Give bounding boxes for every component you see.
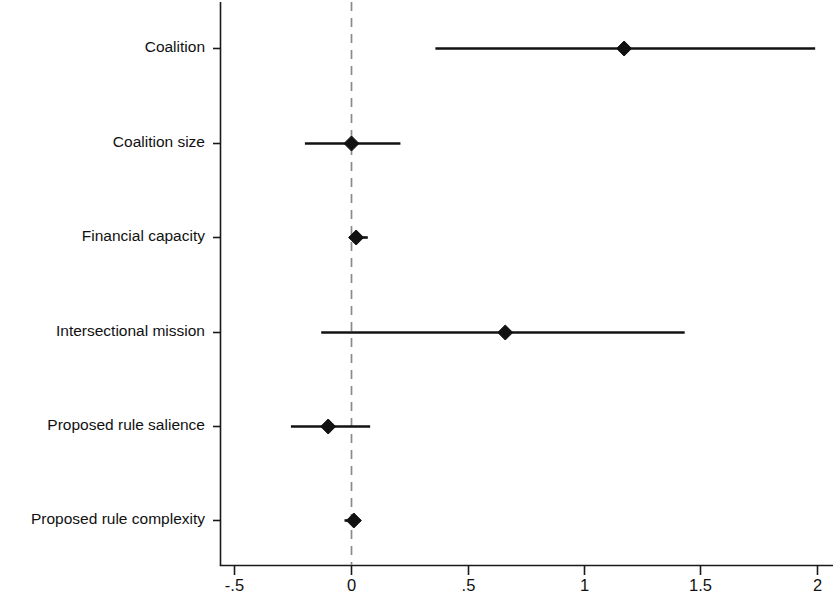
coefficient-row-coalition-size: [305, 136, 401, 151]
y-axis-label-proposed-rule-salience: Proposed rule salience: [47, 416, 205, 433]
coefficient-plot-figure: Coalition Coalition size Financial capac…: [0, 0, 833, 602]
coefficient-series-layer: [291, 41, 815, 528]
x-axis-ticklabel-1: 1: [580, 576, 589, 594]
x-axis-ticklabel-0: 0: [347, 576, 356, 594]
x-axis-ticklabel-2: 2: [813, 576, 822, 594]
x-axis-ticklabel-1.5: 1.5: [689, 576, 712, 594]
coefficient-row-proposed-rule-complexity: [345, 513, 362, 528]
y-axis-label-financial-capacity: Financial capacity: [82, 227, 205, 244]
y-axis-label-coalition: Coalition: [145, 38, 205, 55]
x-axis-ticklabel--0.5: -.5: [225, 576, 244, 594]
x-axis-ticklabel-0.5: .5: [462, 576, 476, 594]
estimate-marker-coalition-size: [344, 136, 359, 151]
estimate-marker-intersectional-mission: [498, 325, 513, 340]
y-axis-label-coalition-size: Coalition size: [113, 133, 205, 150]
coefficient-row-coalition: [435, 41, 815, 56]
coefficient-row-intersectional-mission: [321, 325, 684, 340]
estimate-marker-coalition: [617, 41, 632, 56]
y-axis-label-proposed-rule-complexity: Proposed rule complexity: [31, 510, 205, 527]
estimate-marker-proposed-rule-complexity: [346, 513, 361, 528]
y-axis-label-intersectional-mission: Intersectional mission: [56, 322, 205, 339]
coefficient-row-proposed-rule-salience: [291, 419, 370, 434]
plot-canvas: Coalition Coalition size Financial capac…: [0, 0, 833, 602]
estimate-marker-proposed-rule-salience: [321, 419, 336, 434]
